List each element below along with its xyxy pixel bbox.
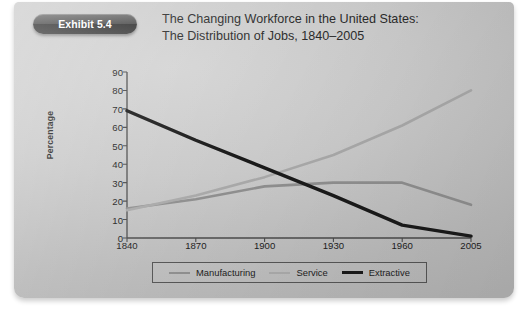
chart-area: Percentage 0102030405060708090 184018701… — [14, 2, 514, 298]
series-line-service — [127, 90, 471, 210]
legend-label: Extractive — [369, 267, 410, 278]
legend-label: Service — [296, 267, 327, 278]
screenshot-root: Exhibit 5.4 The Changing Workforce in th… — [0, 0, 528, 324]
line-chart-svg — [14, 2, 514, 298]
legend-item-extractive[interactable]: Extractive — [342, 267, 410, 278]
chart-legend: ManufacturingServiceExtractive — [152, 262, 427, 283]
legend-swatch-icon — [169, 272, 190, 274]
exhibit-card: Exhibit 5.4 The Changing Workforce in th… — [14, 2, 514, 298]
legend-swatch-icon — [342, 271, 363, 274]
chart-axes — [127, 72, 471, 238]
legend-swatch-icon — [269, 272, 290, 274]
legend-item-service[interactable]: Service — [269, 267, 327, 278]
series-line-manufacturing — [127, 183, 471, 209]
chart-series-lines — [127, 90, 471, 236]
series-line-extractive — [127, 111, 471, 236]
legend-label: Manufacturing — [196, 267, 255, 278]
legend-item-manufacturing[interactable]: Manufacturing — [169, 267, 255, 278]
